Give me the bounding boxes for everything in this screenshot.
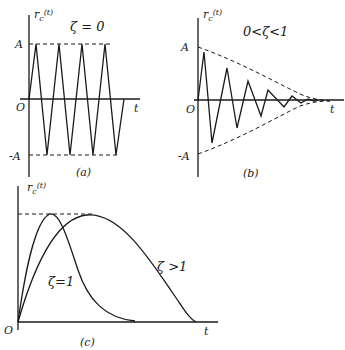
panel-c-ylabel: rc(t) [27, 181, 46, 196]
panel-b-xlabel: t [330, 103, 335, 116]
panel-c-curve1-label: ζ=1 [48, 274, 74, 289]
panel-a-ylabel: rc(t) [34, 8, 53, 23]
panel-a-tick-zero: O [16, 101, 25, 114]
panel-c [18, 186, 218, 330]
panel-b-ylabel: rc(t) [203, 8, 222, 23]
panel-b-tick-zero: O [186, 103, 195, 116]
panel-a-tick-negA: -A [9, 150, 21, 163]
panel-a-tick-A: A [14, 38, 23, 51]
panel-c-xlabel: t [204, 325, 209, 338]
panel-c-tick-zero: O [4, 324, 13, 337]
panel-c-caption: (c) [80, 336, 95, 349]
panel-a [20, 15, 140, 177]
panel-c-curve2-label: ζ >1 [157, 259, 187, 274]
panel-a-caption: (a) [76, 166, 91, 179]
figure-canvas: rc(t) ζ = 0 A O -A t (a) rc(t) 0<ζ<1 A O… [0, 0, 345, 350]
panel-b-caption: (b) [243, 167, 259, 180]
panel-b-condition: 0<ζ<1 [243, 24, 288, 39]
panel-a-xlabel: t [134, 102, 139, 115]
panel-b [194, 18, 344, 177]
panel-b-damped-oscillation [198, 52, 318, 143]
panel-b-tick-negA: -A [178, 150, 190, 163]
panel-a-condition: ζ = 0 [70, 19, 104, 34]
panel-b-tick-A: A [180, 41, 189, 54]
panel-c-curve-zeta-equals-1 [18, 214, 135, 322]
panel-b-lower-envelope [198, 101, 330, 154]
panel-b-upper-envelope [198, 47, 330, 101]
